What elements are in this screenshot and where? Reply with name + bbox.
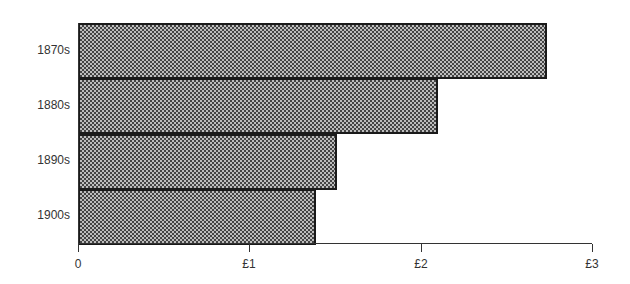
bar-1900s bbox=[78, 189, 316, 245]
bar-1880s bbox=[78, 78, 438, 134]
category-label: 1900s bbox=[0, 208, 70, 222]
x-tick-label: 0 bbox=[58, 257, 98, 271]
x-tick bbox=[421, 244, 422, 252]
bar-1870s bbox=[78, 23, 547, 79]
category-label: 1890s bbox=[0, 153, 70, 167]
x-tick-label: £3 bbox=[572, 257, 612, 271]
x-tick bbox=[78, 244, 79, 252]
bar-chart: 1870s1880s1890s1900s 0£1£2£3 bbox=[0, 0, 630, 284]
x-tick bbox=[592, 244, 593, 252]
x-tick bbox=[249, 244, 250, 252]
x-tick-label: £1 bbox=[229, 257, 269, 271]
category-label: 1870s bbox=[0, 43, 70, 57]
bar-1890s bbox=[78, 134, 337, 190]
x-axis-line bbox=[78, 243, 592, 244]
x-tick-label: £2 bbox=[401, 257, 441, 271]
category-label: 1880s bbox=[0, 98, 70, 112]
y-axis-line bbox=[78, 23, 79, 244]
